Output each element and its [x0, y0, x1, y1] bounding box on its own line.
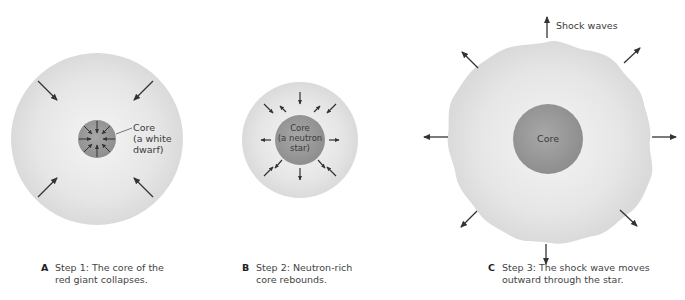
caption-line: Step 1: The core of the	[55, 262, 164, 274]
shock-waves-label: Shock waves	[556, 20, 618, 31]
caption-line: core rebounds.	[256, 274, 352, 286]
panel-c-caption: C Step 3: The shock wave moves outward t…	[502, 262, 650, 285]
core-label-line: (a white	[133, 133, 172, 144]
shock-waves-text: Shock waves	[556, 20, 618, 31]
panel-letter: C	[488, 262, 495, 274]
panel-a-caption: A Step 1: The core of the red giant coll…	[55, 262, 164, 285]
panel-b-core-label: Core (a neutron star)	[270, 123, 330, 153]
panel-letter: B	[242, 262, 249, 274]
caption-line: Step 3: The shock wave moves	[502, 262, 650, 274]
panel-b-caption: B Step 2: Neutron-rich core rebounds.	[256, 262, 352, 285]
panel-a-core-label: Core (a white dwarf)	[133, 122, 172, 155]
core-label-line: (a neutron	[270, 133, 330, 143]
caption-line: outward through the star.	[502, 274, 650, 286]
panel-c-core-label: Core	[518, 133, 578, 144]
core-label-line: Core	[537, 133, 559, 144]
panel-letter: A	[41, 262, 48, 274]
core-label-line: Core	[270, 123, 330, 133]
caption-line: red giant collapses.	[55, 274, 164, 286]
core-label-line: Core	[133, 122, 172, 133]
core-label-line: dwarf)	[133, 144, 172, 155]
core-label-line: star)	[270, 143, 330, 153]
diagram-canvas	[0, 0, 685, 300]
caption-line: Step 2: Neutron-rich	[256, 262, 352, 274]
